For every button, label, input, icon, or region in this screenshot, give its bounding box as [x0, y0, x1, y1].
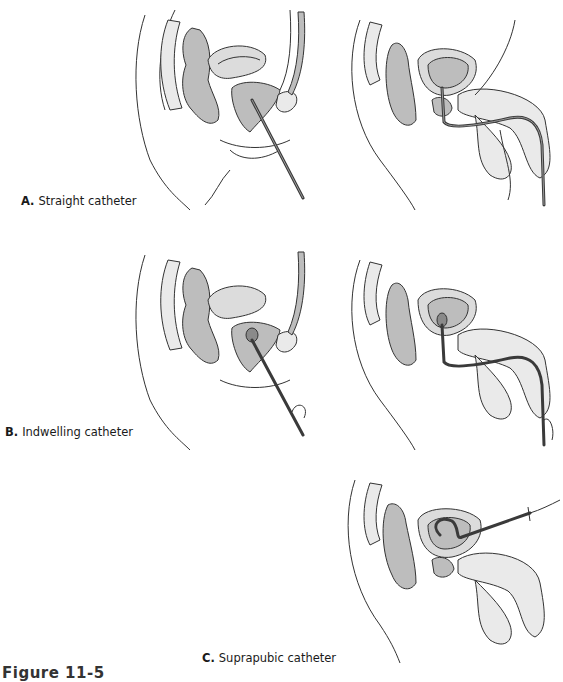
figure-caption: Figure 11-5 [2, 664, 105, 682]
panel-b-letter: B. [5, 425, 18, 439]
panel-c-title: Suprapubic catheter [219, 651, 336, 665]
male-anatomy-indwelling-catheter [340, 240, 563, 455]
female-anatomy-straight-catheter [120, 0, 320, 215]
panel-a-letter: A. [21, 194, 34, 208]
panel-a-title: Straight catheter [38, 194, 136, 208]
female-anatomy-indwelling-catheter [120, 240, 320, 450]
panel-c-label: C.Suprapubic catheter [202, 651, 336, 665]
male-anatomy-straight-catheter [340, 0, 563, 215]
panel-c-letter: C. [202, 651, 215, 665]
panel-b-title: Indwelling catheter [22, 425, 133, 439]
panel-a-label: A.Straight catheter [21, 194, 137, 208]
male-anatomy-suprapubic-catheter [340, 465, 563, 665]
panel-b-label: B.Indwelling catheter [5, 425, 133, 439]
